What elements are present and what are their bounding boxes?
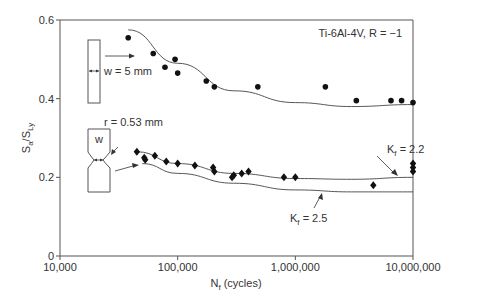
diamond-marker (174, 160, 180, 168)
arrow-icon (132, 163, 139, 168)
diamond-marker (292, 173, 298, 181)
circle-marker (203, 78, 209, 84)
material-label: Ti-6Al-4V, R = −1 (318, 27, 402, 39)
fit-curve (128, 30, 413, 107)
circle-marker (354, 98, 360, 104)
circle-marker (399, 98, 405, 104)
smooth-specimen-sketch: w = 5 mm (88, 40, 152, 103)
smooth-width-label: w = 5 mm (103, 65, 152, 77)
circle-marker (410, 100, 416, 106)
x-tick-label: 10,000,000 (385, 261, 440, 273)
kf-22-annotation: Kf = 2.2 (377, 143, 424, 176)
circle-marker (150, 51, 156, 57)
diamond-marker (152, 152, 158, 160)
y-tick-label: 0.6 (39, 14, 54, 26)
kf-22-label: Kf = 2.2 (387, 143, 424, 158)
x-ticks: 10,000100,0001,000,00010,000,000 (43, 256, 440, 273)
circle-marker (162, 64, 168, 70)
diamond-marker (238, 169, 244, 177)
fit-curves (128, 30, 413, 192)
arrow-icon (129, 54, 135, 59)
diamond-marker (192, 162, 198, 170)
x-axis-title: Nf (cycles) (210, 277, 261, 292)
y-tick-label: 0.2 (39, 171, 54, 183)
kf-25-label: Kf = 2.5 (290, 212, 327, 227)
circle-marker (212, 84, 218, 90)
kf-25-annotation: Kf = 2.5 (290, 193, 327, 227)
circle-marker (323, 84, 329, 90)
circle-marker (388, 98, 394, 104)
notched-specimen-sketch: r = 0.53 mm w (88, 116, 163, 192)
diamond-marker (281, 173, 287, 181)
diamond-marker (134, 148, 140, 156)
circle-marker (125, 35, 131, 41)
y-tick-label: 0.4 (39, 93, 54, 105)
circle-marker (255, 84, 261, 90)
notch-w-label: w (94, 133, 103, 145)
y-axis-title: Sa/SLy (20, 123, 35, 153)
diamond-marker (163, 158, 169, 166)
y-ticks: 00.20.40.6 (39, 14, 60, 262)
data-points (125, 35, 416, 189)
x-tick-label: 1,000,000 (271, 261, 320, 273)
circle-marker (172, 57, 178, 63)
axes (60, 20, 413, 256)
x-tick-label: 10,000 (43, 261, 77, 273)
diamond-marker (370, 181, 376, 189)
fatigue-chart: 00.20.40.6 10,000100,0001,000,00010,000,… (0, 0, 483, 307)
circle-marker (175, 70, 181, 76)
notch-radius-label: r = 0.53 mm (104, 116, 163, 128)
arrow-icon (391, 169, 398, 176)
x-tick-label: 100,000 (158, 261, 198, 273)
